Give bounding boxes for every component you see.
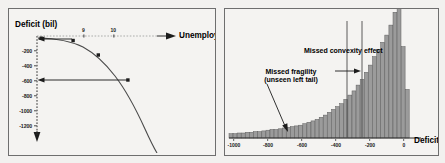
right-xtick-label-1: -800	[259, 142, 277, 148]
left-ytick-label-0: -200	[11, 48, 32, 54]
curve-markers	[40, 37, 130, 82]
figure-root: Deficit (bil) Unemployment -200 -400 -60…	[0, 0, 445, 163]
left-ytick-label-1: -400	[11, 63, 32, 69]
left-y-axis-title: Deficit (bil)	[15, 20, 57, 29]
right-chart-panel: Missed convexity effect Missed fragility…	[224, 8, 439, 156]
fragility-leader-arrow	[267, 84, 288, 132]
right-xtick-label-2: -600	[293, 142, 311, 148]
annotation-fragility-line-2: (unseen left tail)	[264, 76, 318, 83]
left-ytick-label-3: -800	[11, 93, 32, 99]
right-xtick-label-5: 0	[395, 142, 413, 148]
left-chart-panel: Deficit (bil) Unemployment -200 -400 -60…	[8, 8, 216, 156]
left-xtick-label-0: 9	[82, 27, 85, 33]
right-xtick-label-3: -400	[327, 142, 345, 148]
right-x-axis	[229, 138, 421, 141]
left-arrowhead-deep	[38, 77, 45, 82]
left-ytick-label-4: -1000	[11, 108, 32, 114]
right-xtick-label-0: -1000	[225, 142, 243, 148]
annotation-missed-fragility: Missed fragility (unseen left tail)	[252, 68, 330, 84]
right-plot-area: Missed convexity effect Missed fragility…	[225, 9, 438, 155]
left-xtick-label-1: 10	[111, 27, 117, 33]
left-ytick-label-2: -600	[11, 78, 32, 84]
left-plot-area: Deficit (bil) Unemployment -200 -400 -60…	[9, 9, 215, 155]
right-xtick-label-4: -200	[361, 142, 379, 148]
annotation-missed-convexity: Missed convexity effect	[304, 47, 383, 55]
right-x-axis-title: Deficit	[414, 136, 438, 145]
x-axis-arrowhead	[166, 32, 176, 39]
left-x-axis-title: Unemployment	[179, 31, 215, 40]
convexity-leader-arrow	[335, 68, 361, 73]
annotation-fragility-line-1: Missed fragility	[266, 68, 317, 75]
projection-arrow-deep	[38, 77, 128, 82]
left-ytick-label-5: -1200	[11, 123, 32, 129]
